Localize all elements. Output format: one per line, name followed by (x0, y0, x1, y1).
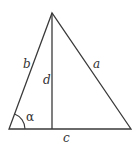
angle-alpha-arc (15, 114, 25, 129)
triangle-diagram: b d a α c (0, 0, 139, 145)
label-side-a: a (93, 57, 100, 71)
label-side-c: c (63, 131, 70, 145)
label-altitude-d: d (43, 73, 51, 87)
label-angle-alpha: α (26, 110, 34, 124)
triangle-svg: b d a α c (0, 0, 139, 145)
label-side-b: b (23, 57, 31, 71)
